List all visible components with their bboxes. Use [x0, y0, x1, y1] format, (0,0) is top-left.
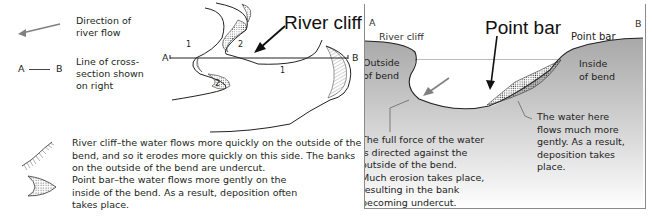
legend-point-bar-text: Point bar–the water flows more gently on…: [72, 174, 297, 212]
plan-number: 1: [186, 40, 191, 49]
plan-number: 2: [215, 79, 220, 88]
legend-flow-text: Direction of river flow: [76, 15, 131, 39]
cross-section-title-point-bar: Point bar: [485, 18, 561, 38]
stippled-bar-icon: [20, 172, 60, 200]
corner-label-a: A: [369, 17, 376, 28]
deposition-note: The water here flows much more gently. A…: [537, 111, 625, 174]
legend-river-cliff-text: River cliff–the water flows more quickly…: [72, 137, 361, 175]
plan-number: 1: [280, 66, 285, 75]
hatched-cliff-icon: [18, 140, 58, 170]
plan-label-a: A: [162, 52, 169, 65]
plan-number: 2: [238, 40, 243, 49]
cross-section-panel: A B River cliff Point bar Point bar Outs…: [364, 4, 646, 209]
legend-section-b: B: [56, 63, 63, 75]
outside-of-bend-label: Outside of bend: [364, 57, 400, 82]
corner-label-b: B: [635, 18, 642, 29]
legend-section-a: A: [18, 63, 25, 75]
legend-section-text: Line of cross- section shown on right: [76, 56, 144, 92]
inside-of-bend-label: Inside of bend: [579, 58, 615, 83]
arrow-left-icon: [14, 20, 64, 40]
plan-title-river-cliff: River cliff: [284, 13, 362, 33]
label-point-bar: Point bar: [571, 31, 616, 42]
section-line-icon: [29, 69, 50, 70]
label-river-cliff: River cliff: [379, 31, 424, 42]
erosion-note: The full force of the water is directed …: [364, 134, 484, 209]
plan-label-b: B: [352, 52, 359, 65]
